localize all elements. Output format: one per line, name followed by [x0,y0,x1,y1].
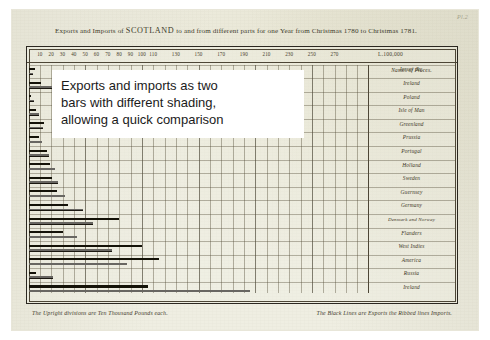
annotation-line-3: allowing a quick comparison [61,112,295,129]
names-column-header: Names of Places. [368,67,456,73]
names-row-rule [368,160,456,161]
x-axis-tick-label: 150 [195,51,203,57]
names-row-rule [368,214,456,215]
grid-line-horizontal [29,228,369,229]
x-axis-unit-label: L.100,000 [378,51,403,57]
annotation-line-1: Exports and imports as two [61,78,295,95]
x-axis-tick-label: 130 [172,51,180,57]
grid-line-horizontal [29,160,369,161]
place-name-label: Germany [368,203,456,209]
names-row-rule [368,241,456,242]
x-axis-tick-strip: 1020304050607080901001101301501701902102… [27,47,457,63]
names-row-rule [368,119,456,120]
title-text-before: Exports and Imports of [55,27,126,35]
bar-exports [29,245,142,247]
bar-imports [29,222,94,224]
bar-imports [29,209,83,211]
place-name-label: Guernsey [368,190,456,196]
names-row-rule [368,268,456,269]
place-name-label: Ireland [368,285,456,291]
names-row-rule [368,282,456,283]
names-row-rule [368,187,456,188]
grid-line-horizontal [29,146,369,147]
bar-imports [29,127,44,129]
chart-footer-caption: The Upright divisions are Ten Thousand P… [26,310,458,316]
x-axis-tick-label: 100 [138,51,146,57]
place-name-label: Sweden [368,176,456,182]
footer-legend-note: The Black Lines are Exports the Ribbed l… [316,310,452,316]
bar-imports [29,141,43,143]
bar-exports [29,163,51,165]
grid-line-horizontal [29,282,369,283]
x-axis-tick-label: 170 [217,51,225,57]
grid-line-vertical [312,65,313,294]
bar-exports [29,136,39,138]
place-name-label: Portugal [368,149,456,155]
grid-line-horizontal [29,214,369,215]
bar-exports [29,109,37,111]
bar-exports [29,272,37,274]
bar-imports [29,113,39,115]
bar-imports [29,86,54,88]
place-name-label: Holland [368,163,456,169]
names-row-rule [368,146,456,147]
x-axis-tick-label: 230 [285,51,293,57]
plate-page: Pl.2 Exports and Imports of SCOTLAND to … [0,0,490,340]
place-names-column: Jersey &c.IrelandPolandIsle of ManGreenl… [368,65,456,294]
bar-imports [29,168,55,170]
grid-line-horizontal [29,187,369,188]
bar-imports [29,181,58,183]
grid-line-horizontal [29,241,369,242]
page-title: Exports and Imports of SCOTLAND to and f… [20,26,452,35]
names-row-rule [368,255,456,256]
place-name-label: Poland [368,95,456,101]
bar-imports [29,73,34,75]
bar-exports [29,68,36,70]
x-axis-tick-label: 50 [83,51,88,57]
names-row-rule [368,200,456,201]
bar-exports [29,218,120,220]
title-country: SCOTLAND [126,26,174,35]
names-row-rule [368,65,456,66]
grid-line-horizontal [29,65,369,66]
x-axis-tick-label: 80 [117,51,122,57]
grid-line-horizontal [29,200,369,201]
names-row-rule [368,228,456,229]
bar-exports [29,177,53,179]
bar-exports [29,231,63,233]
bar-imports [29,290,250,292]
bar-exports [29,82,41,84]
names-row-rule [368,105,456,106]
x-axis-tick-label: 20 [49,51,54,57]
bar-imports [29,263,128,265]
names-row-rule [368,92,456,93]
x-axis-tick-label: 250 [308,51,316,57]
x-axis-tick-label: 30 [60,51,65,57]
bar-imports [29,195,65,197]
place-name-label: Flanders [368,231,456,237]
bar-imports [29,249,113,251]
x-axis-tick-label: 90 [128,51,133,57]
names-row-rule [368,78,456,79]
place-name-label: Ireland [368,81,456,87]
grid-line-horizontal [29,173,369,174]
names-row-rule [368,173,456,174]
bar-exports [29,150,47,152]
bar-exports [29,258,159,260]
grid-line-vertical [335,65,336,294]
bar-imports [29,154,49,156]
grid-line-horizontal [29,255,369,256]
grid-line-vertical [357,65,358,294]
bar-imports [29,276,54,278]
bar-exports [29,122,45,124]
bar-exports [29,190,57,192]
plate-number: Pl.2 [457,14,468,20]
place-name-label: America [368,258,456,264]
x-axis-tick-label: 190 [240,51,248,57]
x-axis-tick-label: 270 [331,51,339,57]
x-axis-tick-label: 60 [94,51,99,57]
bar-imports [29,236,78,238]
place-name-label: Denmark and Norway [368,217,456,222]
x-axis-tick-label: 110 [149,51,157,57]
grid-line-horizontal [29,268,369,269]
